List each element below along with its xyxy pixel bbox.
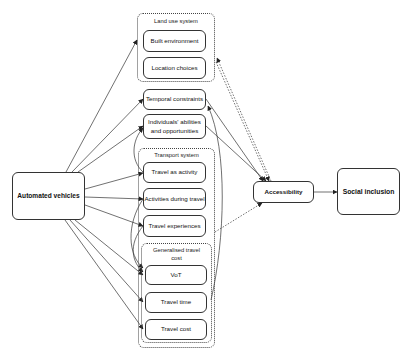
edge-landuse-accessibility [216, 62, 269, 181]
edge-accessibility-landuse [217, 58, 271, 181]
node-location-choices[interactable]: Location choices [143, 57, 206, 79]
node-travel-as-activity[interactable]: Travel as activity [143, 162, 206, 183]
node-label: Travel experiences [148, 222, 200, 230]
node-automated-vehicles[interactable]: Automated vehicles [12, 172, 85, 220]
node-travel-time[interactable]: Travel time [145, 292, 207, 313]
node-label: Travel cost [161, 325, 191, 333]
group-title: Transport system [139, 152, 214, 160]
node-activities-during-travel[interactable]: Activities during travel [143, 188, 206, 210]
edge-av-traveltime [70, 220, 143, 302]
group-title: Generalised travel cost [142, 247, 211, 262]
edge-av-temporal [72, 99, 143, 172]
edge-av-vot [75, 220, 143, 275]
node-label: Temporal constraints [146, 95, 203, 103]
node-label: Travel as activity [152, 168, 198, 176]
node-label: Individuals' abilities and opportunities [147, 118, 202, 135]
node-social-inclusion[interactable]: Social inclusion [337, 168, 400, 215]
node-label: Built environment [151, 37, 199, 45]
node-label: Accessibility [265, 188, 303, 196]
group-title: Land use system [138, 18, 214, 26]
node-vot[interactable]: VoT [145, 265, 207, 285]
edge-av-activities [85, 197, 143, 199]
node-individuals-abilities[interactable]: Individuals' abilities and opportunities [143, 114, 206, 139]
edge-av-experiences [85, 205, 143, 226]
node-label: VoT [170, 271, 181, 279]
node-travel-cost[interactable]: Travel cost [145, 319, 207, 340]
node-label: Social inclusion [343, 187, 395, 196]
node-label: Travel time [161, 298, 191, 306]
edge-av-landuse [66, 40, 137, 172]
node-label: Automated vehicles [17, 192, 79, 201]
node-temporal-constraints[interactable]: Temporal constraints [143, 89, 206, 110]
node-label: Activities during travel [144, 195, 204, 203]
node-built-environment[interactable]: Built environment [143, 30, 206, 52]
edge-av-travel-activity [85, 173, 143, 189]
node-label: Location choices [151, 64, 197, 72]
node-accessibility[interactable]: Accessibility [253, 181, 314, 203]
node-travel-experiences[interactable]: Travel experiences [143, 215, 206, 237]
